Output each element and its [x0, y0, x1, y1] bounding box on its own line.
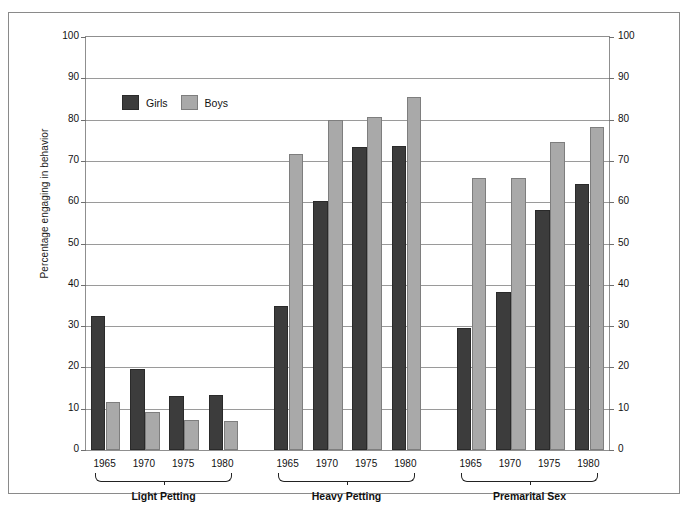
bar-light-petting-1980-boys [224, 421, 239, 450]
axis-tick-label: 40 [68, 279, 79, 289]
axis-tick-mark [81, 37, 86, 38]
legend-swatch-boys [181, 95, 198, 110]
axis-tick-label: 100 [62, 31, 79, 41]
axis-tick-label: 50 [618, 238, 629, 248]
x-axis-year-label: 1970 [133, 458, 155, 469]
x-axis-year-label: 1980 [577, 458, 599, 469]
gridline [86, 409, 609, 410]
axis-tick-label: 80 [618, 114, 629, 124]
x-axis-year-label: 1975 [538, 458, 560, 469]
bar-premarital-sex-1965-boys [472, 178, 487, 450]
gridline [86, 202, 609, 203]
axis-tick-label: 40 [618, 279, 629, 289]
axis-tick-label: 20 [68, 361, 79, 371]
axis-tick-label: 50 [68, 238, 79, 248]
x-axis-year-label: 1970 [316, 458, 338, 469]
bar-light-petting-1970-girls [130, 369, 145, 450]
axis-tick-label: 10 [618, 403, 629, 413]
bar-premarital-sex-1965-girls [457, 328, 472, 450]
x-axis-year-label: 1980 [211, 458, 233, 469]
axis-tick-mark [609, 161, 614, 162]
bar-heavy-petting-1970-boys [328, 120, 343, 450]
group-label: Heavy Petting [312, 490, 381, 502]
axis-tick-mark [609, 326, 614, 327]
bar-premarital-sex-1970-girls [496, 292, 511, 450]
bar-premarital-sex-1970-boys [511, 178, 526, 450]
bar-premarital-sex-1980-girls [575, 184, 590, 450]
legend-entry-boys: Boys [181, 95, 228, 110]
axis-tick-mark [609, 409, 614, 410]
bar-light-petting-1965-boys [106, 402, 121, 450]
axis-tick-mark [81, 326, 86, 327]
axis-tick-label: 70 [618, 155, 629, 165]
bar-light-petting-1975-boys [184, 420, 199, 450]
x-axis-year-label: 1965 [277, 458, 299, 469]
gridline [86, 244, 609, 245]
axis-tick-mark [81, 244, 86, 245]
group-bracket [278, 473, 416, 482]
axis-tick-label: 100 [618, 31, 635, 41]
axis-tick-mark [609, 450, 614, 451]
axis-tick-mark [609, 244, 614, 245]
bar-light-petting-1980-girls [209, 395, 224, 450]
group-bracket [95, 473, 233, 482]
axis-tick-label: 30 [68, 320, 79, 330]
axis-tick-mark [609, 37, 614, 38]
axis-tick-mark [81, 367, 86, 368]
axis-tick-mark [81, 120, 86, 121]
axis-tick-mark [609, 120, 614, 121]
bar-heavy-petting-1980-boys [407, 97, 422, 450]
axis-tick-label: 0 [73, 444, 79, 454]
bar-premarital-sex-1980-boys [590, 127, 605, 450]
legend-entry-girls: Girls [122, 95, 168, 110]
axis-tick-mark [81, 161, 86, 162]
gridline [86, 161, 609, 162]
x-axis-year-label: 1975 [355, 458, 377, 469]
axis-tick-mark [609, 78, 614, 79]
group-bracket [461, 473, 599, 482]
axis-tick-mark [81, 78, 86, 79]
gridline [86, 285, 609, 286]
bar-premarital-sex-1975-girls [535, 210, 550, 450]
legend-label-girls: Girls [146, 97, 168, 109]
axis-tick-mark [81, 285, 86, 286]
axis-tick-mark [609, 202, 614, 203]
plot-area: 0102030405060708090100 01020304050607080… [85, 36, 610, 451]
axis-tick-label: 70 [68, 155, 79, 165]
x-axis-year-label: 1980 [394, 458, 416, 469]
bar-light-petting-1970-boys [145, 412, 160, 450]
bar-light-petting-1975-girls [169, 396, 184, 450]
gridline [86, 367, 609, 368]
x-axis-year-label: 1970 [499, 458, 521, 469]
x-axis-year-label: 1965 [94, 458, 116, 469]
gridline [86, 78, 609, 79]
figure-frame: Percentage engaging in behavior 01020304… [8, 12, 680, 494]
axis-tick-mark [609, 285, 614, 286]
bar-light-petting-1965-girls [91, 316, 106, 450]
group-label: Light Petting [131, 490, 195, 502]
x-axis-year-label: 1975 [172, 458, 194, 469]
bar-heavy-petting-1975-boys [367, 117, 382, 450]
axis-tick-label: 20 [618, 361, 629, 371]
gridline [86, 326, 609, 327]
axis-tick-mark [81, 450, 86, 451]
gridline [86, 120, 609, 121]
legend-swatch-girls [122, 95, 139, 110]
axis-tick-mark [81, 202, 86, 203]
axis-tick-label: 30 [618, 320, 629, 330]
x-axis-year-label: 1965 [460, 458, 482, 469]
axis-tick-mark [81, 409, 86, 410]
bar-heavy-petting-1975-girls [352, 147, 367, 450]
bar-heavy-petting-1965-boys [289, 154, 304, 450]
axis-tick-label: 90 [618, 72, 629, 82]
axis-tick-label: 90 [68, 72, 79, 82]
group-label: Premarital Sex [493, 490, 566, 502]
bar-heavy-petting-1965-girls [274, 306, 289, 450]
axis-tick-label: 60 [618, 196, 629, 206]
bar-premarital-sex-1975-boys [550, 142, 565, 451]
axis-tick-label: 10 [68, 403, 79, 413]
chart-legend: Girls Boys [122, 95, 228, 110]
axis-tick-label: 60 [68, 196, 79, 206]
legend-label-boys: Boys [205, 97, 228, 109]
bar-heavy-petting-1970-girls [313, 201, 328, 450]
